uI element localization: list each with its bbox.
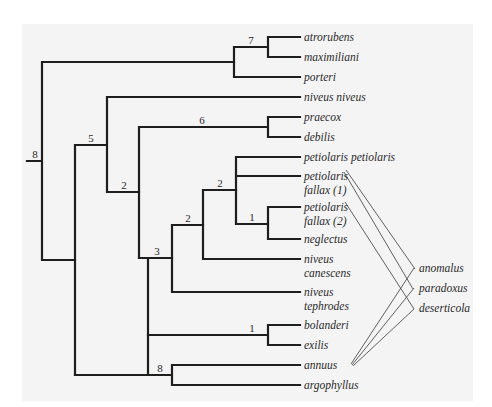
support-values: 8 7 5 2 6 2 2 1 3 1 8 — [32, 34, 255, 374]
hybrid-label-deserticola: deserticola — [419, 302, 470, 314]
support-1-bolanderi: 1 — [249, 322, 255, 334]
support-2-outer: 2 — [185, 212, 191, 224]
taxon-label: petiolaris — [303, 201, 349, 214]
support-1-fallax: 1 — [249, 211, 255, 223]
taxon-label: porteri — [303, 71, 336, 84]
taxon-label: canescens — [304, 267, 351, 279]
taxon-label: atrorubens — [304, 31, 355, 43]
taxon-label: debilis — [304, 131, 335, 143]
taxon-label: fallax (1) — [304, 184, 347, 197]
taxon-label: petiolaris petiolaris — [303, 151, 396, 164]
taxon-label: tephrodes — [304, 300, 349, 313]
tip-labels: atrorubens maximiliani porteri niveus ni… — [303, 31, 396, 392]
taxon-label: niveus niveus — [304, 91, 366, 103]
taxon-label: annuus — [304, 359, 338, 371]
taxon-label: niveus — [304, 286, 334, 298]
taxon-label: praecox — [303, 111, 342, 124]
support-2a: 2 — [121, 179, 127, 191]
taxon-label: niveus — [304, 253, 334, 265]
hybrid-label-anomalus: anomalus — [419, 262, 464, 274]
phylogenetic-tree: 8 7 5 2 6 2 2 1 3 1 8 atrorubens maximil… — [0, 0, 492, 407]
hybrid-labels: anomalus paradoxus deserticola — [418, 262, 470, 314]
taxon-label: neglectus — [304, 233, 348, 246]
hybrid-label-paradoxus: paradoxus — [418, 282, 468, 295]
support-7: 7 — [248, 34, 254, 46]
hybrid-lines — [344, 170, 415, 366]
taxon-label: maximiliani — [304, 51, 359, 63]
taxon-label: fallax (2) — [304, 215, 347, 228]
support-3: 3 — [154, 245, 160, 257]
tree-branches — [27, 37, 300, 385]
support-root: 8 — [32, 148, 38, 160]
taxon-label: petiolaris — [303, 170, 349, 183]
taxon-label: argophyllus — [304, 379, 359, 392]
taxon-label: bolanderi — [304, 319, 349, 331]
support-8-annuus: 8 — [157, 362, 163, 374]
taxon-label: exilis — [304, 339, 329, 351]
support-2-inner: 2 — [217, 177, 223, 189]
support-6: 6 — [199, 114, 205, 126]
support-5: 5 — [88, 132, 94, 144]
